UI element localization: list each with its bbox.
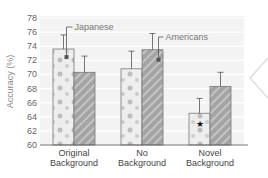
x-category-label: No bbox=[136, 148, 148, 158]
bar-americans bbox=[142, 50, 163, 145]
x-category-label: Background bbox=[50, 158, 98, 168]
y-tick-label: 62 bbox=[27, 126, 37, 136]
y-tick-label: 70 bbox=[27, 69, 37, 79]
y-tick-label: 66 bbox=[27, 98, 37, 108]
y-tick-label: 78 bbox=[27, 13, 37, 23]
x-category-label: Background bbox=[186, 158, 234, 168]
significance-star-icon: ★ bbox=[196, 119, 204, 129]
y-tick-label: 76 bbox=[27, 27, 37, 37]
y-tick-label: 68 bbox=[27, 84, 37, 94]
bar-americans bbox=[210, 86, 231, 145]
y-tick-label: 64 bbox=[27, 112, 37, 122]
bar-chart: 60626466687072747678Accuracy (%)Original… bbox=[0, 0, 268, 178]
bar-japanese bbox=[53, 49, 74, 145]
y-axis-label: Accuracy (%) bbox=[5, 55, 15, 109]
chevron-left-icon bbox=[250, 58, 268, 98]
bar-americans bbox=[74, 72, 95, 145]
y-tick-label: 72 bbox=[27, 55, 37, 65]
x-category-label: Novel bbox=[198, 148, 221, 158]
bar-japanese bbox=[121, 69, 142, 145]
y-tick-label: 74 bbox=[27, 41, 37, 51]
x-category-label: Background bbox=[118, 158, 166, 168]
x-category-label: Original bbox=[58, 148, 89, 158]
legend-japanese: Japanese bbox=[75, 22, 114, 32]
legend-americans: Americans bbox=[166, 32, 209, 42]
y-tick-label: 60 bbox=[27, 140, 37, 150]
